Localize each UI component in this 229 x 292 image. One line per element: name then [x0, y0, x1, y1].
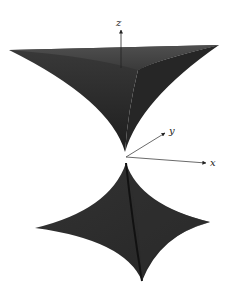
- upper-nappe: [9, 45, 219, 152]
- x-axis: [126, 157, 206, 163]
- figure-caption: [0, 286, 229, 292]
- z-axis-label: z: [115, 17, 122, 28]
- x-axis-label: x: [210, 157, 216, 168]
- lower-nappe: [35, 163, 210, 281]
- y-axis-label: y: [168, 125, 175, 136]
- surface-figure: z y x: [0, 0, 229, 292]
- y-axis: [126, 133, 165, 157]
